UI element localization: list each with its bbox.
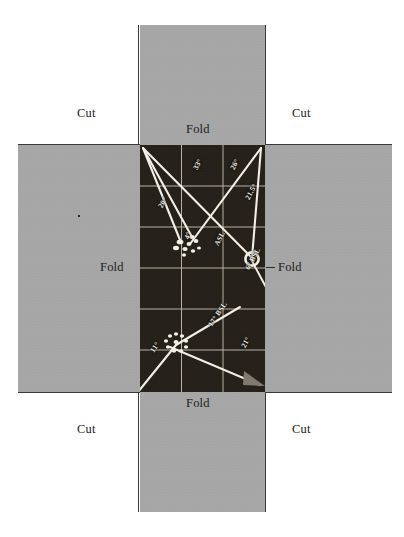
label-fold-bottom: Fold (186, 396, 210, 411)
cut-line-top-right-vertical (265, 25, 266, 145)
label-cut-bottom-right: Cut (292, 422, 311, 437)
label-fold-top: Fold (186, 122, 210, 137)
center-panel: 20° 33° 26° 21.5° 4° ASL 6° BSL 17° BSL … (140, 145, 265, 392)
cut-line-top-left-horizontal (18, 144, 140, 145)
cut-line-top-right-horizontal (265, 144, 392, 145)
cut-line-bottom-right-vertical (265, 392, 266, 512)
cut-line-bottom-left-horizontal (18, 392, 140, 393)
label-fold-left: Fold (100, 260, 124, 275)
cut-line-bottom-left-vertical (138, 392, 139, 512)
fold-tick-right (266, 267, 275, 268)
box-net-figure: 20° 33° 26° 21.5° 4° ASL 6° BSL 17° BSL … (0, 0, 404, 537)
label-cut-bottom-left: Cut (77, 422, 96, 437)
cut-line-bottom-right-horizontal (265, 392, 392, 393)
label-cut-top-right: Cut (292, 106, 311, 121)
paper-speck (78, 215, 80, 217)
label-cut-top-left: Cut (77, 106, 96, 121)
cut-line-top-left-vertical (138, 25, 139, 145)
label-fold-right: Fold (278, 260, 302, 275)
ray-arrowhead (243, 371, 265, 386)
